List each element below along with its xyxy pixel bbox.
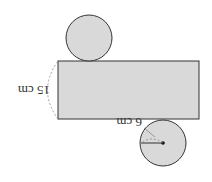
- height-label: 15 cm: [18, 83, 50, 98]
- cylinder-net-diagram: 6 cm 15 cm: [0, 0, 212, 182]
- lateral-surface-rectangle: [58, 61, 199, 119]
- bottom-base-circle: [66, 15, 112, 61]
- radius-label: 6 cm: [116, 115, 142, 130]
